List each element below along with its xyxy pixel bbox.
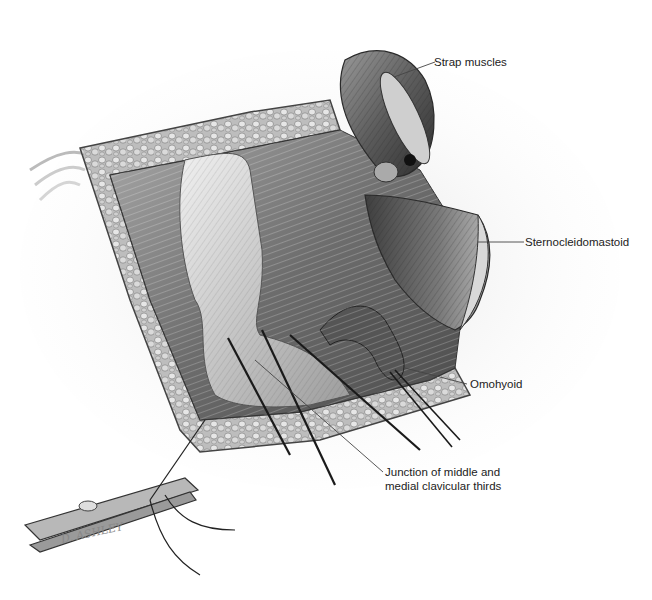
- label-sternocleidomastoid: Sternocleidomastoid: [525, 235, 629, 249]
- surgical-illustration: D. ASHLEY Strap muscles Sternocleidomast…: [0, 0, 652, 600]
- label-strap-muscles: Strap muscles: [434, 55, 507, 69]
- label-junction-line1: Junction of middle and: [385, 465, 500, 479]
- vessel-stump: [404, 154, 416, 166]
- illustration-canvas: D. ASHLEY: [0, 0, 652, 600]
- label-junction-line2: medial clavicular thirds: [385, 479, 501, 493]
- label-omohyoid: Omohyoid: [470, 377, 522, 391]
